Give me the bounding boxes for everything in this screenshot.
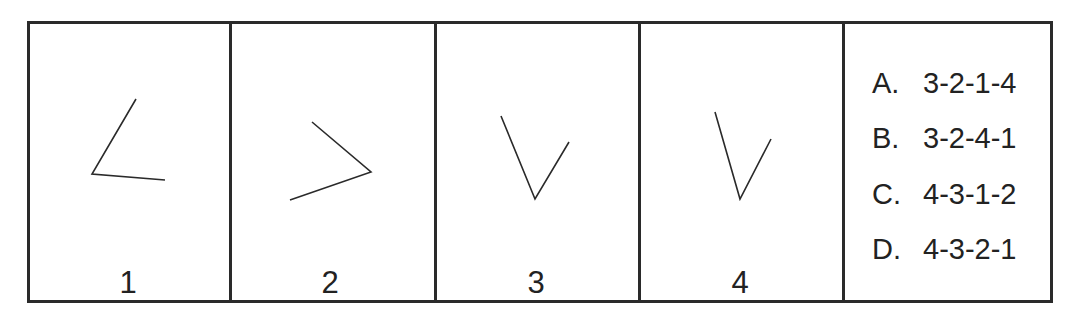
option-letter: C. <box>872 177 923 211</box>
option-letter: D. <box>872 232 923 266</box>
panel-4-angle-figure <box>715 112 771 199</box>
option-a[interactable]: A.3-2-1-4 <box>872 66 1017 100</box>
option-sequence: 4-3-1-2 <box>923 178 1017 210</box>
option-sequence: 4-3-2-1 <box>923 233 1017 265</box>
panel-1-label: 1 <box>98 267 158 298</box>
option-letter: A. <box>872 66 923 100</box>
option-sequence: 3-2-4-1 <box>923 122 1017 154</box>
panel-4-label: 4 <box>710 267 770 298</box>
panel-1-angle-figure <box>92 99 165 180</box>
panel-3-angle-figure <box>501 116 569 199</box>
option-letter: B. <box>872 121 923 155</box>
panel-2-angle-figure <box>290 122 371 200</box>
option-sequence: 3-2-1-4 <box>923 67 1017 99</box>
panel-3-label: 3 <box>506 267 566 298</box>
panel-2-label: 2 <box>300 267 360 298</box>
sequence-puzzle: 1 2 3 4 A.3-2-1-4 B.3-2-4-1 C.4-3-1-2 D.… <box>27 21 1053 303</box>
option-d[interactable]: D.4-3-2-1 <box>872 232 1017 266</box>
option-b[interactable]: B.3-2-4-1 <box>872 121 1017 155</box>
option-c[interactable]: C.4-3-1-2 <box>872 177 1017 211</box>
